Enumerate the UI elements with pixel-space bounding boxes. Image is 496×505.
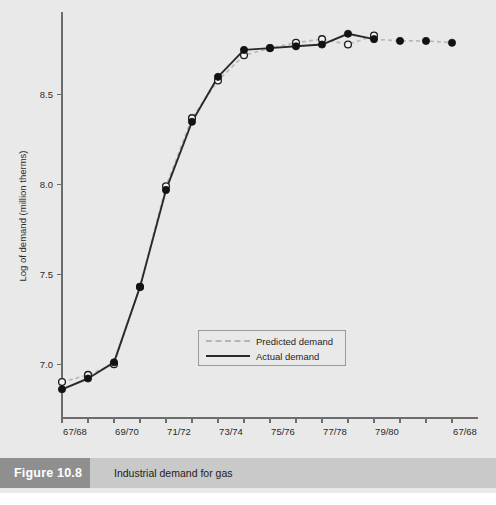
x-tick-label-6: 79/80: [375, 426, 399, 437]
data-point-actual-2: [110, 359, 117, 366]
chart-plot-area: 7.07.58.08.5Log of demand (million therm…: [0, 0, 496, 450]
x-tick-label-2: 71/72: [167, 426, 191, 437]
chart-legend: Predicted demand Actual demand: [198, 330, 346, 366]
data-point-actual-1: [84, 375, 91, 382]
data-point-actual-10: [318, 41, 325, 48]
data-point-forecast-3: [448, 39, 455, 46]
y-tick-label-0: 7.0: [40, 359, 53, 370]
data-point-actual-11: [344, 30, 351, 37]
figure-number-label: Figure 10.8: [0, 458, 90, 488]
x-tick-label-3: 73/74: [219, 426, 243, 437]
legend-swatch-predicted-icon: [206, 336, 250, 346]
data-point-actual-7: [240, 46, 247, 53]
data-point-actual-12: [370, 36, 377, 43]
y-tick-label-1: 7.5: [40, 269, 53, 280]
x-tick-label-7: 67/68: [453, 426, 477, 437]
figure-source-line: [0, 493, 496, 505]
x-tick-label-5: 77/78: [323, 426, 347, 437]
data-point-actual-0: [58, 386, 65, 393]
data-point-actual-4: [162, 186, 169, 193]
series-line-forecast: [374, 39, 452, 43]
data-point-actual-8: [266, 45, 273, 52]
x-tick-label-1: 69/70: [115, 426, 139, 437]
figure-caption-bar: Figure 10.8 Industrial demand for gas: [0, 458, 496, 488]
data-point-actual-5: [188, 118, 195, 125]
data-point-actual-3: [136, 283, 143, 290]
y-tick-label-2: 8.0: [40, 179, 53, 190]
legend-item-actual: Actual demand: [206, 349, 319, 363]
legend-label-predicted: Predicted demand: [256, 336, 333, 347]
data-point-predicted-0: [59, 379, 66, 386]
legend-swatch-actual-icon: [206, 351, 250, 361]
legend-label-actual: Actual demand: [256, 351, 319, 362]
y-axis-title: Log of demand (million therms): [17, 151, 28, 282]
data-point-forecast-2: [422, 37, 429, 44]
figure-caption-text: Industrial demand for gas: [90, 458, 496, 488]
data-point-actual-9: [292, 43, 299, 50]
data-point-actual-6: [214, 73, 221, 80]
x-tick-label-0: 67/68: [63, 426, 87, 437]
x-tick-label-4: 75/76: [271, 426, 295, 437]
chart-svg: 7.07.58.08.5Log of demand (million therm…: [0, 0, 496, 450]
data-point-predicted-11: [345, 41, 352, 48]
y-tick-label-3: 8.5: [40, 89, 53, 100]
legend-item-predicted: Predicted demand: [206, 334, 333, 348]
data-point-forecast-1: [396, 37, 403, 44]
figure-container: 7.07.58.08.5Log of demand (million therm…: [0, 0, 496, 505]
